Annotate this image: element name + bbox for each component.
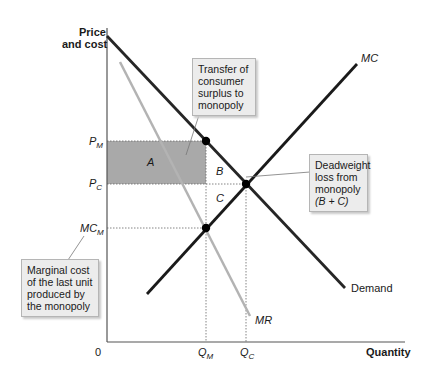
mc-label: MC xyxy=(361,52,378,64)
mcm-main: MC xyxy=(80,222,97,234)
marginal-line-3: produced by xyxy=(27,288,93,300)
marginal-cost-callout: Marginal cost of the last unit produced … xyxy=(21,259,99,317)
mr-label: MR xyxy=(255,314,272,326)
qc-tick-label: QC xyxy=(240,346,254,358)
region-b-label: B xyxy=(216,165,223,177)
region-a-label: A xyxy=(147,156,154,168)
pm-sub: M xyxy=(96,141,103,150)
marginal-line-2: of the last unit xyxy=(27,276,93,288)
marginal-line-4: the monopoly xyxy=(27,300,93,312)
qc-sub: C xyxy=(249,352,255,361)
competitive-equilibrium-point xyxy=(242,180,250,188)
qm-main: Q xyxy=(198,346,207,358)
transfer-callout: Transfer of consumer surplus to monopoly xyxy=(192,58,256,116)
qc-main: Q xyxy=(240,346,249,358)
pc-sub: C xyxy=(96,183,102,192)
pm-tick-label: PM xyxy=(89,135,103,147)
qm-sub: M xyxy=(207,352,214,361)
deadweight-line-2: loss from xyxy=(315,171,362,183)
x-axis-label: Quantity xyxy=(366,346,411,358)
deadweight-callout: Deadweight loss from monopoly (B + C) xyxy=(309,154,368,212)
deadweight-line-1: Deadweight xyxy=(315,159,362,171)
marginal-leader xyxy=(68,236,84,260)
deadweight-line-3: monopoly xyxy=(315,183,362,195)
transfer-line-3: surplus to xyxy=(198,87,250,99)
transfer-line-1: Transfer of xyxy=(198,63,250,75)
origin-label: 0 xyxy=(95,346,101,358)
region-a-shaded xyxy=(107,141,206,184)
qm-tick-label: QM xyxy=(198,346,213,358)
pc-tick-label: PC xyxy=(89,177,102,189)
region-c-label: C xyxy=(216,192,224,204)
monopoly-price-point xyxy=(202,137,210,145)
marginal-line-1: Marginal cost xyxy=(27,264,93,276)
mcm-sub: M xyxy=(97,228,104,237)
deadweight-line-4: (B + C) xyxy=(315,195,362,207)
y-axis-label-line2: and cost xyxy=(62,38,107,50)
demand-label: Demand xyxy=(351,282,393,294)
transfer-line-4: monopoly xyxy=(198,99,250,111)
monopoly-mc-point xyxy=(202,224,210,232)
y-axis-label-line1: Price xyxy=(79,26,106,38)
mcm-tick-label: MCM xyxy=(80,222,104,234)
transfer-line-2: consumer xyxy=(198,75,250,87)
